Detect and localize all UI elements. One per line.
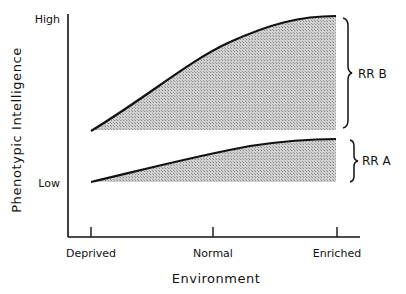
rr-a-brace (350, 140, 358, 182)
rr-b-label: RR B (358, 67, 387, 81)
rr-a-area (91, 139, 336, 182)
rr-a-label: RR A (362, 154, 391, 168)
y-label-high: High (35, 13, 60, 26)
x-axis-title: Environment (172, 271, 261, 286)
rr-b-area (91, 16, 336, 131)
reaction-range-chart: Deprived Normal Enriched Environment Phe… (0, 0, 406, 294)
x-tick-label-deprived: Deprived (66, 247, 116, 260)
x-tick-label-enriched: Enriched (313, 247, 361, 260)
rr-b-brace (343, 18, 352, 128)
x-tick-label-normal: Normal (193, 247, 233, 260)
y-label-low: Low (38, 177, 60, 190)
y-axis-title: Phenotypic Intelligence (9, 47, 24, 213)
